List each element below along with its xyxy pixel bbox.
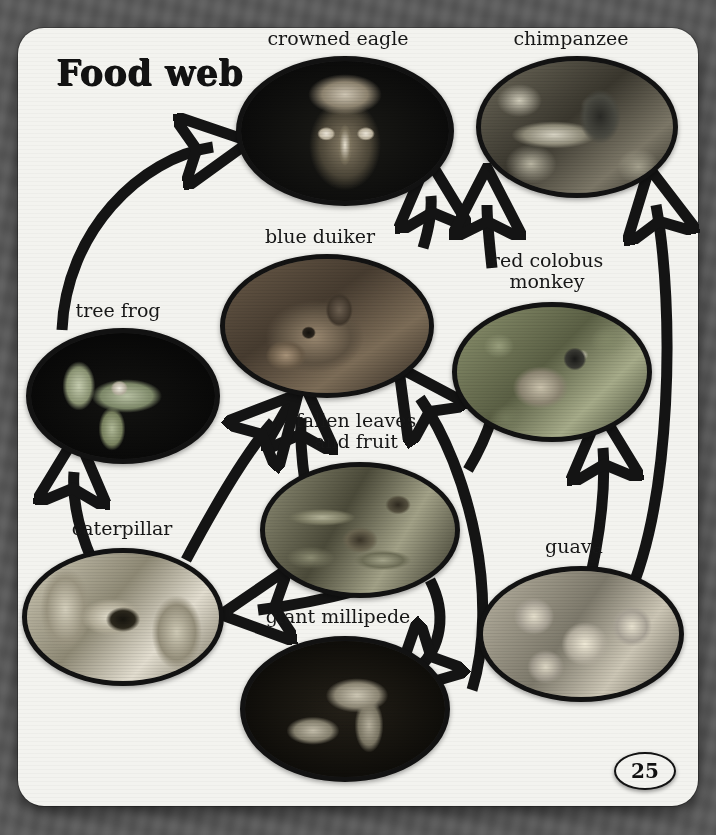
page-card: Food web — [18, 28, 698, 806]
node-red-colobus-monkey[interactable]: red colobus monkey — [438, 250, 656, 450]
photo-blue-duiker[interactable] — [220, 254, 434, 398]
label-fallen-leaves-line2: and fruit — [314, 430, 398, 452]
photo-giant-millipede[interactable] — [240, 636, 450, 782]
label-red-colobus-monkey: red colobus monkey — [491, 250, 603, 291]
label-red-colobus-line2: monkey — [509, 270, 584, 292]
food-web-page: Food web — [0, 0, 716, 835]
node-caterpillar[interactable]: caterpillar — [18, 518, 226, 698]
label-chimpanzee: chimpanzee — [513, 28, 628, 49]
photo-chimpanzee[interactable] — [476, 56, 678, 198]
label-crowned-eagle: crowned eagle — [267, 28, 408, 49]
label-blue-duiker: blue duiker — [265, 226, 375, 247]
node-fallen-leaves-and-fruit[interactable]: fallen leaves and fruit — [246, 410, 466, 610]
photo-fallen-leaves-and-fruit[interactable] — [260, 462, 460, 598]
node-giant-millipede[interactable]: giant millipede — [224, 606, 452, 796]
node-crowned-eagle[interactable]: crowned eagle — [228, 28, 448, 218]
label-tree-frog: tree frog — [76, 300, 161, 321]
photo-tree-frog[interactable] — [26, 328, 220, 464]
label-caterpillar: caterpillar — [72, 518, 173, 539]
node-tree-frog[interactable]: tree frog — [18, 300, 218, 480]
photo-red-colobus-monkey[interactable] — [452, 302, 652, 442]
label-fallen-leaves-line1: fallen leaves — [296, 409, 416, 431]
node-chimpanzee[interactable]: chimpanzee — [466, 28, 676, 218]
label-guava: guava — [545, 536, 603, 557]
photo-guava[interactable] — [478, 566, 684, 702]
label-fallen-leaves-and-fruit: fallen leaves and fruit — [296, 410, 416, 451]
photo-caterpillar[interactable] — [22, 548, 224, 686]
node-blue-duiker[interactable]: blue duiker — [210, 226, 430, 406]
node-guava[interactable]: guava — [464, 536, 684, 716]
label-red-colobus-line1: red colobus — [491, 249, 603, 271]
page-number: 25 — [614, 752, 676, 790]
photo-crowned-eagle[interactable] — [236, 56, 454, 206]
label-giant-millipede: giant millipede — [266, 606, 411, 627]
